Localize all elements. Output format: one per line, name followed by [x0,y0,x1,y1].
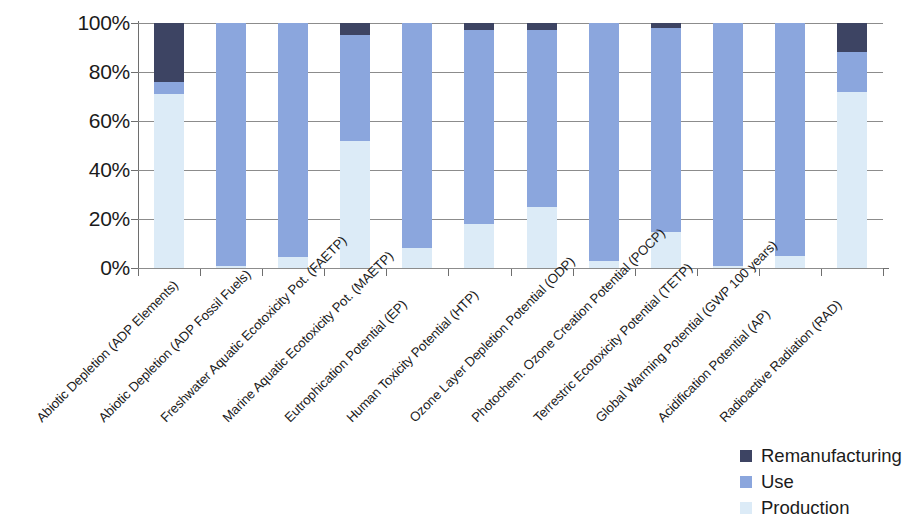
bar-segment-remanufacturing[interactable] [837,23,867,52]
bar-segment-use[interactable] [216,23,246,266]
bar-slot [511,23,573,268]
bar-segment-production[interactable] [340,141,370,268]
stacked-bar[interactable] [402,23,432,268]
legend-item[interactable]: Production [740,495,890,521]
bar-segment-use[interactable] [651,28,681,233]
stacked-bar[interactable] [464,23,494,268]
x-axis-label: Ozone Layer Depletion Potential (ODP) [406,254,577,425]
legend-label: Use [761,471,794,493]
bars-layer [138,23,883,268]
x-tickmark [573,269,574,276]
x-axis-label: Terrestric Ecotoxicity Potential (TETP) [530,260,695,425]
bar-slot [635,23,697,268]
bar-segment-use[interactable] [837,52,867,91]
bar-segment-use[interactable] [464,30,494,224]
bar-segment-production[interactable] [464,224,494,268]
x-axis-label: Acidification Potential (AP) [654,306,773,425]
x-tickmark [697,269,698,276]
bar-segment-use[interactable] [527,30,557,206]
bar-slot [821,23,883,268]
x-tickmark [138,269,139,276]
bar-slot [262,23,324,268]
x-tickmark [324,269,325,276]
stacked-bar[interactable] [589,23,619,268]
bar-slot [697,23,759,268]
bar-segment-production[interactable] [837,92,867,268]
bar-segment-use[interactable] [775,23,805,256]
y-tick-label: 40% [89,158,130,182]
stacked-bar[interactable] [713,23,743,268]
bar-segment-use[interactable] [340,35,370,140]
y-tick-label: 20% [89,207,130,231]
legend-swatch-icon [740,450,752,462]
x-tickmark [200,269,201,276]
legend-swatch-icon [740,476,752,488]
y-tick-label: 80% [89,60,130,84]
stacked-bar[interactable] [154,23,184,268]
x-tickmark [883,269,884,276]
bar-segment-production[interactable] [713,266,743,268]
stacked-bar[interactable] [527,23,557,268]
bar-slot [448,23,510,268]
bar-segment-use[interactable] [402,23,432,248]
bar-slot [573,23,635,268]
legend-label: Production [761,497,849,519]
x-tickmark [448,269,449,276]
stacked-bar[interactable] [837,23,867,268]
bar-slot [138,23,200,268]
bar-slot [324,23,386,268]
y-tickmark [131,268,138,269]
bar-segment-use[interactable] [154,82,184,94]
bar-slot [200,23,262,268]
bar-segment-remanufacturing[interactable] [340,23,370,35]
stacked-bar[interactable] [216,23,246,268]
y-tickmark [131,219,138,220]
bar-segment-remanufacturing[interactable] [527,23,557,30]
x-tickmark [262,269,263,276]
bar-segment-production[interactable] [589,261,619,268]
x-axis-label: Marine Aquatic Ecotoxicity Pot. (MAETP) [220,248,397,425]
x-axis-label: Radioactive Radiation (RAD) [716,297,844,425]
stacked-bar[interactable] [651,23,681,268]
bar-segment-production[interactable] [775,256,805,268]
x-tickmark [759,269,760,276]
bar-segment-use[interactable] [278,23,308,257]
x-axis-label: Abiotic Depletion (ADP Elements) [33,277,181,425]
x-tickmark [386,269,387,276]
x-tickmark [821,269,822,276]
legend-swatch-icon [740,502,752,514]
bar-slot [759,23,821,268]
bar-segment-remanufacturing[interactable] [651,23,681,28]
bar-segment-use[interactable] [713,23,743,266]
y-tickmark [131,23,138,24]
bar-segment-production[interactable] [154,94,184,268]
bar-segment-production[interactable] [651,232,681,268]
x-tickmark [511,269,512,276]
chart-legend: RemanufacturingUseProduction [740,443,890,521]
x-tickmark [635,269,636,276]
bar-segment-use[interactable] [589,23,619,261]
legend-item[interactable]: Use [740,469,890,495]
bar-slot [386,23,448,268]
legend-item[interactable]: Remanufacturing [740,443,890,469]
y-tick-label: 0% [100,256,130,280]
legend-label: Remanufacturing [761,445,902,467]
y-tickmark [131,170,138,171]
y-tickmark [131,72,138,73]
stacked-bar[interactable] [775,23,805,268]
bar-segment-production[interactable] [278,257,308,268]
x-axis-label: Abiotic Depletion (ADP Fossil Fuels) [96,267,254,425]
bar-segment-production[interactable] [216,266,246,268]
x-axis-label: Human Toxicity Potential (HTP) [344,287,482,425]
y-axis-labels: 0%20%40%60%80%100% [48,0,138,290]
x-axis-label: Eutrophication Potential (EP) [282,297,410,425]
bar-segment-remanufacturing[interactable] [464,23,494,30]
bar-segment-production[interactable] [402,248,432,268]
bar-segment-remanufacturing[interactable] [154,23,184,82]
y-tickmark [131,121,138,122]
bar-segment-production[interactable] [527,207,557,268]
stacked-bar[interactable] [278,23,308,268]
y-tick-label: 100% [77,11,130,35]
stacked-bar[interactable] [340,23,370,268]
